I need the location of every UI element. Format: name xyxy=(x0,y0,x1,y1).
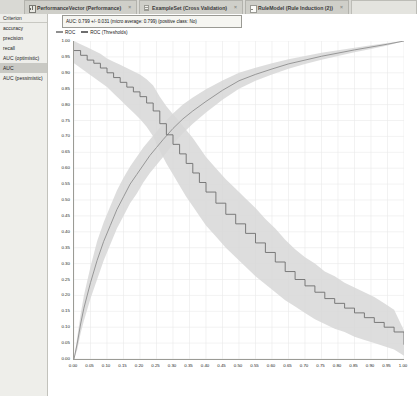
y-tick-label: 0.80 xyxy=(61,103,70,107)
x-tick-label: 0.20 xyxy=(135,363,144,368)
y-tick-label: 0.85 xyxy=(61,87,70,91)
chart-legend: ROC ROC (Thresholds) xyxy=(56,28,128,36)
tab-bar: PerformanceVector (Performance) × Exampl… xyxy=(0,0,417,15)
sidebar-item-auc-pessimistic[interactable]: AUC (pessimistic) xyxy=(0,73,47,83)
y-tick-label: 0.15 xyxy=(61,309,70,313)
close-icon[interactable]: × xyxy=(234,5,237,10)
y-tick-label: 0.50 xyxy=(61,198,70,202)
x-tick-label: 0.70 xyxy=(300,363,309,368)
y-tick-label: 0.60 xyxy=(61,166,70,170)
y-tick-label: 0.95 xyxy=(61,55,70,59)
legend-swatch-roc-thresholds xyxy=(81,31,88,33)
x-tick-label: 0.85 xyxy=(349,363,358,368)
close-icon[interactable]: × xyxy=(340,5,343,10)
y-tick-label: 0.30 xyxy=(61,262,70,266)
sidebar-item-precision[interactable]: precision xyxy=(0,33,47,43)
x-tick-label: 0.80 xyxy=(333,363,342,368)
x-tick-label: 0.25 xyxy=(151,363,160,368)
x-axis-labels: 0.000.050.100.150.200.250.300.350.400.45… xyxy=(73,361,409,375)
close-icon[interactable]: × xyxy=(128,5,131,10)
y-tick-label: 0.70 xyxy=(61,134,70,138)
tab-label: ExampleSet (Cross Validation) xyxy=(152,5,227,11)
legend-swatch-roc xyxy=(56,31,63,33)
x-tick-label: 0.55 xyxy=(250,363,259,368)
y-tick-label: 0.40 xyxy=(61,230,70,234)
auc-summary-label: AUC: 0.799 +/- 0.031 (micro average: 0.7… xyxy=(62,15,242,28)
x-tick-label: 1.00 xyxy=(399,363,408,368)
legend-label: ROC xyxy=(65,30,75,35)
y-tick-label: 0.05 xyxy=(61,341,70,345)
y-tick-label: 0.00 xyxy=(61,357,70,361)
x-tick-label: 0.75 xyxy=(316,363,325,368)
x-tick-label: 0.05 xyxy=(85,363,94,368)
y-tick-label: 0.20 xyxy=(61,293,70,297)
rulemodel-icon xyxy=(250,5,255,11)
legend-entry-roc: ROC xyxy=(56,30,75,35)
tab-label: RuleModel (Rule Induction (2)) xyxy=(258,5,333,11)
x-tick-label: 0.15 xyxy=(118,363,127,368)
y-axis-labels: 0.000.050.100.150.200.250.300.350.400.45… xyxy=(48,41,72,363)
x-tick-label: 0.95 xyxy=(382,363,391,368)
y-tick-label: 0.55 xyxy=(61,182,70,186)
legend-label: ROC (Thresholds) xyxy=(90,30,127,35)
y-tick-label: 0.35 xyxy=(61,246,70,250)
tab-strip-filler xyxy=(351,0,417,14)
criterion-sidebar: Criterion accuracy precision recall AUC … xyxy=(0,14,48,396)
x-tick-label: 0.60 xyxy=(267,363,276,368)
y-tick-label: 0.25 xyxy=(61,278,70,282)
tab-performancevector[interactable]: PerformanceVector (Performance) × xyxy=(24,0,137,14)
y-tick-label: 0.45 xyxy=(61,214,70,218)
y-tick-label: 1.00 xyxy=(61,39,70,43)
performance-icon xyxy=(29,5,34,11)
tab-exampleset[interactable]: ExampleSet (Cross Validation) × xyxy=(139,0,243,14)
tab-rulemodel[interactable]: RuleModel (Rule Induction (2)) × xyxy=(245,0,349,14)
y-tick-label: 0.10 xyxy=(61,325,70,329)
x-tick-label: 0.50 xyxy=(234,363,243,368)
x-tick-label: 0.90 xyxy=(366,363,375,368)
sidebar-item-auc[interactable]: AUC xyxy=(0,63,47,73)
chart-panel: AUC: 0.799 +/- 0.031 (micro average: 0.7… xyxy=(48,14,417,396)
y-tick-label: 0.65 xyxy=(61,150,70,154)
sidebar-item-auc-optimistic[interactable]: AUC (optimistic) xyxy=(0,53,47,63)
x-tick-label: 0.40 xyxy=(201,363,210,368)
roc-plot-svg xyxy=(74,41,404,359)
rapidminer-results-window: PerformanceVector (Performance) × Exampl… xyxy=(0,0,417,396)
roc-plot-area xyxy=(73,41,404,360)
tab-label: PerformanceVector (Performance) xyxy=(37,5,121,11)
y-tick-label: 0.90 xyxy=(61,71,70,75)
x-tick-label: 0.65 xyxy=(283,363,292,368)
criterion-header: Criterion xyxy=(0,14,47,23)
x-tick-label: 0.30 xyxy=(168,363,177,368)
x-tick-label: 0.35 xyxy=(184,363,193,368)
exampleset-icon xyxy=(144,5,149,11)
y-tick-label: 0.75 xyxy=(61,119,70,123)
x-tick-label: 0.45 xyxy=(217,363,226,368)
legend-entry-roc-thresholds: ROC (Thresholds) xyxy=(81,30,127,35)
x-tick-label: 0.10 xyxy=(102,363,111,368)
x-tick-label: 0.00 xyxy=(69,363,78,368)
sidebar-item-recall[interactable]: recall xyxy=(0,43,47,53)
sidebar-item-accuracy[interactable]: accuracy xyxy=(0,23,47,33)
